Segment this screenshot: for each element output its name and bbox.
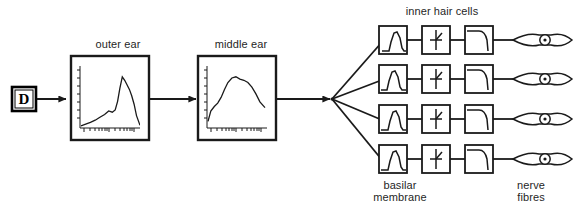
basilar-membrane-label-line2: membrane <box>361 191 439 203</box>
lowpass-filter-block-4 <box>465 145 493 173</box>
bandpass-filter-block-2 <box>379 65 407 93</box>
auditory-model-diagram: D outer ear middle ear inner hair cells … <box>0 0 586 213</box>
signal-source-label: D <box>14 89 34 109</box>
branch-to-row-4 <box>332 99 382 160</box>
nerve-fibres-label-line2: fibres <box>500 191 562 203</box>
bandpass-filter-block-4 <box>379 145 407 173</box>
nerve-fibre-1 <box>513 34 572 46</box>
nerve-fibres-label: nerve fibres <box>500 179 562 203</box>
nerve-fibre-2 <box>513 73 572 85</box>
half-wave-rectifier-block-1 <box>422 26 450 54</box>
middle-ear-block <box>198 56 276 140</box>
outer-ear-block <box>71 56 149 140</box>
nerve-fibre-3 <box>513 113 572 125</box>
basilar-membrane-label-line1: basilar <box>383 179 416 191</box>
basilar-membrane-label: basilar membrane <box>361 179 439 203</box>
channel-row-4 <box>379 145 572 173</box>
diagram-canvas <box>0 0 586 213</box>
middle-ear-label: middle ear <box>204 38 278 50</box>
inner-hair-cells-label: inner hair cells <box>394 5 490 17</box>
channel-row-1 <box>379 26 572 54</box>
half-wave-rectifier-block-3 <box>422 105 450 133</box>
half-wave-rectifier-block-2 <box>422 65 450 93</box>
outer-ear-label: outer ear <box>83 38 153 50</box>
bandpass-filter-block-1 <box>379 26 407 54</box>
half-wave-rectifier-block-4 <box>422 145 450 173</box>
lowpass-filter-block-2 <box>465 65 493 93</box>
channel-row-2 <box>379 65 572 93</box>
lowpass-filter-block-1 <box>465 26 493 54</box>
nerve-fibres-label-line1: nerve <box>517 179 545 191</box>
fan-out-branches <box>332 42 382 160</box>
bandpass-filter-block-3 <box>379 105 407 133</box>
channel-row-3 <box>379 105 572 133</box>
lowpass-filter-block-3 <box>465 105 493 133</box>
nerve-fibre-4 <box>513 153 572 165</box>
